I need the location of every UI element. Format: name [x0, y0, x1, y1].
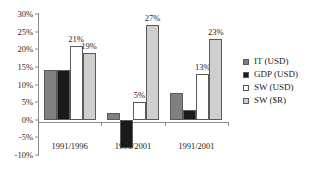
plot-area: 30%25%20%15%10%5%0%-5%-10%21%19%1991/199… — [38, 14, 228, 155]
bar — [209, 39, 222, 120]
bar — [107, 113, 120, 120]
bar — [133, 102, 146, 120]
x-axis-category-label: 1991/1996 — [51, 142, 87, 151]
x-axis-category-label: 1991/2001 — [178, 142, 214, 151]
bar-value-label: 27% — [145, 14, 161, 23]
bar — [70, 46, 83, 120]
bar — [183, 110, 196, 120]
bar — [83, 53, 96, 120]
bar-value-label: 5% — [134, 91, 145, 100]
legend-item-label: SW ($R) — [254, 96, 286, 105]
legend-item[interactable]: IT (USD) — [243, 55, 298, 68]
legend-swatch-icon — [243, 98, 249, 104]
legend-item[interactable]: SW (USD) — [243, 81, 298, 94]
legend-item-label: IT (USD) — [254, 57, 289, 66]
legend-item-label: SW (USD) — [254, 83, 294, 92]
bar-chart: 30%25%20%15%10%5%0%-5%-10%21%19%1991/199… — [0, 0, 313, 171]
bar — [196, 74, 209, 120]
x-axis-tick-mark — [101, 122, 102, 126]
x-axis-tick-mark — [228, 122, 229, 126]
bar — [170, 93, 183, 119]
bar — [146, 25, 159, 120]
legend-swatch-icon — [243, 85, 249, 91]
legend-item[interactable]: GDP (USD) — [243, 68, 298, 81]
x-axis-category-label: 1996/2001 — [115, 142, 151, 151]
legend-item[interactable]: SW ($R) — [243, 94, 298, 107]
bar-value-label: 23% — [208, 28, 224, 37]
legend-swatch-icon — [243, 72, 249, 78]
chart-legend: IT (USD)GDP (USD)SW (USD)SW ($R) — [243, 55, 298, 107]
bar — [57, 70, 70, 119]
bar-value-label: 13% — [195, 63, 211, 72]
bar-value-label: 19% — [81, 42, 97, 51]
legend-item-label: GDP (USD) — [254, 70, 298, 79]
legend-swatch-icon — [243, 59, 249, 65]
x-axis-tick-mark — [165, 122, 166, 126]
bar — [44, 70, 57, 119]
